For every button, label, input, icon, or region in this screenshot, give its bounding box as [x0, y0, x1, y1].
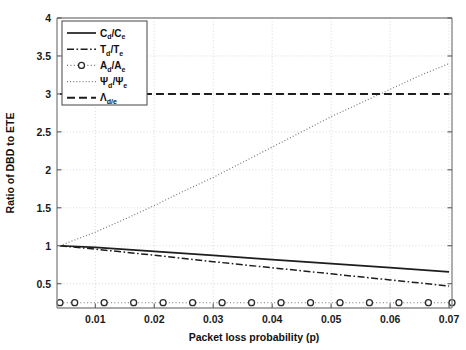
x-tick-label: 0.02 [144, 313, 165, 325]
y-tick-label: 4 [45, 12, 51, 24]
y-tick-label: 3.5 [36, 50, 51, 62]
y-axis-title: Ratio of DBD to ETE [4, 113, 16, 214]
chart-legend: Cd/CeTd/TeAd/AeΨd/ΨeΛd/e [62, 21, 147, 105]
series-marker [337, 300, 343, 306]
y-tick-label: 2.5 [36, 126, 51, 138]
legend-marker [79, 62, 85, 68]
series-marker [278, 300, 284, 306]
series-marker [249, 300, 255, 306]
y-tick-label: 2 [45, 164, 51, 176]
series-marker [366, 300, 372, 306]
x-tick-label: 0.01 [85, 313, 106, 325]
chart-figure: 0.010.020.030.040.050.060.070.511.522.53… [0, 0, 466, 350]
x-tick-label: 0.06 [380, 313, 401, 325]
series-marker [396, 300, 402, 306]
x-tick-label: 0.04 [262, 313, 283, 325]
y-tick-label: 1.5 [36, 202, 51, 214]
series-marker [131, 300, 137, 306]
y-tick-label: 3 [45, 88, 51, 100]
chart-svg: 0.010.020.030.040.050.060.070.511.522.53… [0, 0, 466, 350]
y-tick-label: 1 [45, 240, 51, 252]
series-marker [308, 300, 314, 306]
series-marker [190, 300, 196, 306]
series-marker [219, 300, 225, 306]
legend-label-psi-d-psi-e: Ψd/Ψe [100, 76, 127, 89]
x-tick-label: 0.05 [321, 313, 342, 325]
series-marker [72, 300, 78, 306]
series-marker [425, 300, 431, 306]
series-marker [160, 300, 166, 306]
x-axis-title: Packet loss probability (p) [189, 331, 320, 343]
series-marker [101, 300, 107, 306]
y-tick-label: 0.5 [36, 278, 51, 290]
series-marker [57, 300, 63, 306]
x-tick-label: 0.07 [439, 313, 460, 325]
x-tick-label: 0.03 [203, 313, 224, 325]
